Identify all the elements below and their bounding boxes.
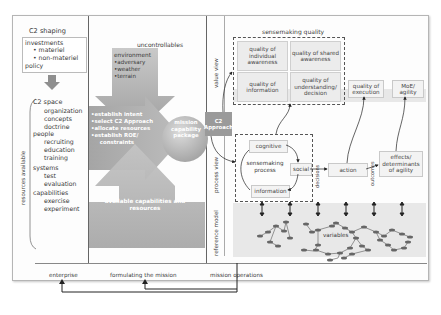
bottom-label-mission-operations: mission operations (210, 272, 263, 279)
bottom-label-enterprise: enterprise (49, 272, 78, 279)
connector-lines (0, 0, 441, 315)
bottom-label-formulating: formulating the mission (110, 272, 177, 279)
variables-label: variables (322, 232, 349, 239)
